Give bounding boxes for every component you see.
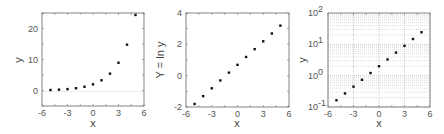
data-point [361,79,363,81]
y-tick-labels: 10-1100101102 [308,4,326,112]
y-tick-label: 2 [177,39,182,49]
y-tick-label: -2 [174,102,182,112]
y-tick-exponent: -1 [318,98,326,108]
x-tick-label: 6 [427,109,432,119]
tick-marks [42,13,144,106]
data-point [58,88,60,90]
x-tick-label: -3 [349,109,357,119]
data-point [369,72,371,74]
data-point [228,71,230,73]
y-tick-exponent: 0 [318,67,323,77]
y-tick-label: 10 [308,71,318,81]
x-tick-label: 6 [286,109,291,119]
data-point [75,87,77,89]
x-tick-label: 3 [261,109,266,119]
y-tick-label: 20 [28,24,38,34]
data-point [245,56,247,58]
data-point [236,64,238,66]
data-point [412,38,414,40]
y-tick-labels: 01020 [28,24,38,96]
chart-semilog: -6-3036 10-1100101102 x y [296,4,433,129]
x-tick-label: 6 [141,108,146,118]
y-tick-label: 10 [308,102,318,112]
y-axis-label: Y = ln y [154,41,166,78]
data-point [378,65,380,67]
y-tick-label: 0 [33,86,38,96]
chart-linear: -6-3036 01020 x y [12,13,147,129]
data-point [279,24,281,26]
data-point [395,51,397,53]
data-point [83,86,85,88]
data-point [403,45,405,47]
data-point [117,62,119,64]
plot-frame [42,13,144,106]
data-point [66,88,68,90]
plot-frame [186,13,289,107]
y-tick-labels: -2024 [174,8,182,112]
data-point [100,79,102,81]
data-point [386,58,388,60]
data-point [352,85,354,87]
data-point [335,99,337,101]
x-tick-label: -3 [63,108,71,118]
data-point [420,31,422,33]
x-tick-label: -6 [182,109,190,119]
y-tick-exponent: 1 [318,35,323,45]
x-tick-label: 3 [402,109,407,119]
y-tick-label: 10 [308,39,318,49]
y-tick-label: 10 [28,55,38,65]
figure: -6-3036 01020 x y -6-3036 -2024 x Y = ln… [0,0,444,134]
y-tick-exponent: 2 [318,4,323,14]
x-axis-label: x [234,117,240,129]
data-point [271,32,273,34]
y-axis-label: y [296,57,308,63]
data-points [193,24,281,105]
x-axis-label: x [90,117,96,129]
x-tick-label: -6 [38,108,46,118]
x-tick-label: -6 [324,109,332,119]
data-point [134,14,136,16]
data-point [202,95,204,97]
data-point [109,72,111,74]
data-point [211,87,213,89]
tick-marks [186,13,289,107]
y-tick-label: 0 [177,71,182,81]
x-axis-label: x [376,117,382,129]
chart-ln: -6-3036 -2024 x Y = ln y [154,8,292,129]
data-point [92,83,94,85]
y-axis-label: y [12,57,24,63]
data-point [253,48,255,50]
data-point [126,43,128,45]
data-points [49,14,136,91]
data-point [49,89,51,91]
data-point [193,103,195,105]
y-tick-label: 4 [177,8,182,18]
data-point [262,40,264,42]
y-tick-label: 10 [308,8,318,18]
data-point [219,79,221,81]
x-tick-label: -3 [208,109,216,119]
grid-lines [328,13,430,107]
data-point [344,92,346,94]
x-tick-label: 3 [116,108,121,118]
